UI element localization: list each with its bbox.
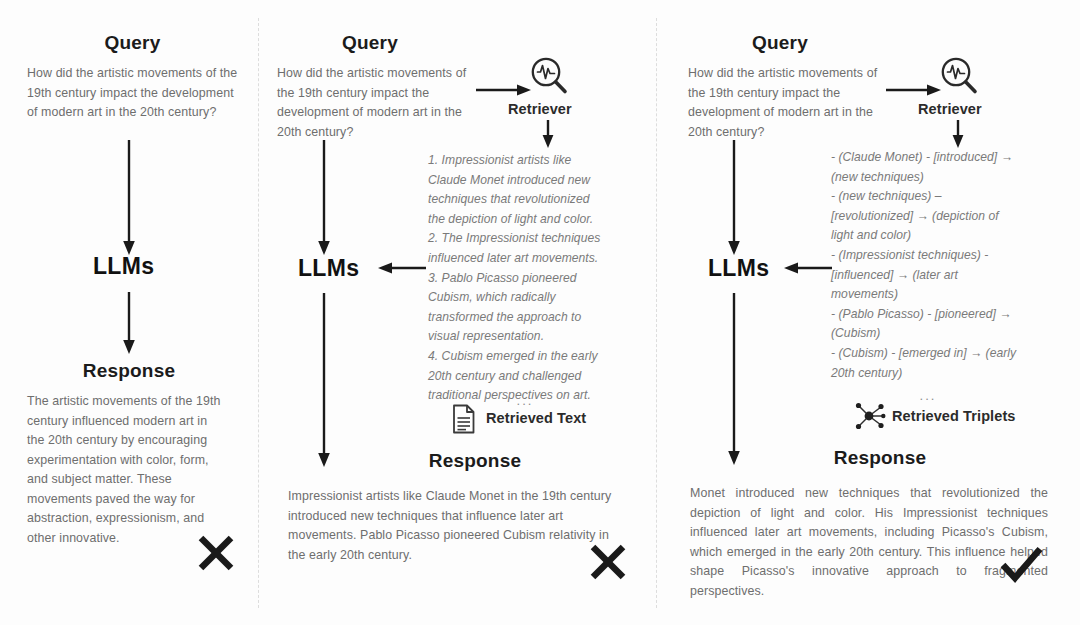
column3-arrow-llm-to-response [723,293,745,465]
retrieved-line: 2. The Impressionist techniques [428,229,628,249]
retrieved-line: - (Cubism) - [emerged in] → (early [831,344,1046,364]
retrieved-line: 20th century and challenged [428,367,628,387]
column3-retriever-label: Retriever [918,101,982,117]
column3-llms-label: LLMs [708,255,769,282]
cross-icon [196,533,236,573]
check-icon [1000,545,1044,585]
column1-llms-label: LLMs [93,253,154,280]
column-divider-2 [656,18,657,608]
retrieved-line: 20th century) [831,364,1046,384]
column2-response-title: Response [400,450,550,472]
column1-response-title: Response [54,360,204,382]
column2-llms-label: LLMs [298,255,359,282]
retrieved-line: (new techniques) [831,168,1046,188]
column3-retrieved-ellipsis: ... [893,388,963,403]
column2-retrieved-ellipsis: ... [490,393,560,408]
column1-arrow-query-to-llm [118,140,140,255]
retrieved-line: Cubism, which radically [428,288,628,308]
column2-query-title: Query [300,32,440,54]
diagram-canvas: Query How did the artistic movements of … [0,0,1080,625]
retrieved-line: movements) [831,285,1046,305]
column3-retrieved-lines: - (Claude Monet) - [introduced] → (new t… [831,148,1046,383]
column2-query-text: How did the artistic movements of the 19… [277,64,477,142]
column2-arrow-retriever-to-text [538,120,558,148]
column2-arrow-text-to-llm [378,258,426,278]
column2-arrow-query-to-llm [313,140,335,255]
retrieved-line: light and color) [831,226,1046,246]
column3-query-title: Query [710,32,850,54]
magnifier-pulse-icon [937,54,981,98]
column3-arrow-triplets-to-llm [784,258,832,278]
column2-response-text: Impressionist artists like Claude Monet … [288,487,621,565]
column2-arrow-query-to-retriever [476,80,531,100]
retrieved-line: Claude Monet introduced new [428,171,628,191]
retrieved-line: - (Pablo Picasso) - [pioneered] → [831,305,1046,325]
retrieved-line: 4. Cubism emerged in the early [428,347,628,367]
column3-query-text: How did the artistic movements of the 19… [688,64,888,142]
cross-icon [588,542,628,582]
column3-response-text: Monet introduced new techniques that rev… [690,484,1048,601]
column2-retriever-label: Retriever [508,101,572,117]
column3-retrieved-label: Retrieved Triplets [892,408,1016,424]
column-divider-1 [258,18,259,608]
retrieved-line: 1. Impressionist artists like [428,151,628,171]
column2-retrieved-lines: 1. Impressionist artists like Claude Mon… [428,151,628,406]
column3-arrow-retriever-to-triplets [948,120,968,148]
magnifier-pulse-icon [527,54,571,98]
retrieved-line: - (new techniques) – [831,187,1046,207]
column3-arrow-query-to-retriever [886,80,941,100]
retrieved-line: 3. Pablo Picasso pioneered [428,269,628,289]
column3-arrow-query-to-llm [723,140,745,255]
column1-response-text: The artistic movements of the 19th centu… [27,392,227,548]
column2-arrow-llm-to-response [313,293,335,467]
column3-response-title: Response [805,447,955,469]
retrieved-line: - (Impressionist techniques) - [831,246,1046,266]
column1-query-text: How did the artistic movements of the 19… [27,64,245,123]
retrieved-line: visual representation. [428,327,628,347]
document-icon [451,404,477,434]
retrieved-line: - (Claude Monet) - [introduced] → [831,148,1046,168]
retrieved-line: [revolutionized] → (depiction of [831,207,1046,227]
retrieved-line: the depiction of light and color. [428,210,628,230]
retrieved-line: transformed the approach to [428,308,628,328]
retrieved-line: techniques that revolutionized [428,190,628,210]
retrieved-line: influenced later art movements. [428,249,628,269]
retrieved-line: (Cubism) [831,324,1046,344]
graph-nodes-icon [854,401,886,431]
column1-query-title: Query [60,32,205,54]
column1-arrow-llm-to-response [118,292,140,354]
retrieved-line: [influenced] → (later art [831,266,1046,286]
column2-retrieved-label: Retrieved Text [486,410,586,426]
